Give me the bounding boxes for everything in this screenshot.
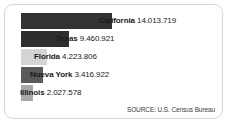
bar-label-name: Texas [56, 34, 78, 43]
bar-label-name: Illinois [20, 88, 45, 97]
bar-label-value: 3.416.922 [74, 70, 109, 79]
bar-label-name: California [99, 16, 135, 25]
chart-row-nueva-york: Nueva York 3.416.922 [5, 66, 222, 84]
infographic-card: California 14.013.719 Texas 9.460.921 Fl… [4, 4, 223, 119]
bar-chart: California 14.013.719 Texas 9.460.921 Fl… [5, 5, 222, 118]
bar-label-illinois: Illinois 2.027.578 [20, 86, 81, 99]
bar-label-value: 9.460.921 [80, 34, 115, 43]
chart-row-california: California 14.013.719 [5, 12, 222, 30]
bar-label-name: Nueva York [30, 70, 72, 79]
bar-label-nueva-york: Nueva York 3.416.922 [30, 68, 109, 81]
bar-label-value: 14.013.719 [137, 16, 176, 25]
bar-label-florida: Florida 4.223.806 [34, 50, 97, 63]
bar-label-name: Florida [34, 52, 60, 61]
bar-label-texas: Texas 9.460.921 [56, 32, 114, 45]
chart-row-texas: Texas 9.460.921 [5, 30, 222, 48]
chart-row-illinois: Illinois 2.027.578 [5, 84, 222, 102]
bar-label-value: 4.223.806 [62, 52, 97, 61]
bar-label-value: 2.027.578 [47, 88, 82, 97]
bar-label-california: California 14.013.719 [99, 14, 176, 27]
source-note: SOURCE: U.S. Census Bureau [127, 105, 215, 114]
chart-row-florida: Florida 4.223.806 [5, 48, 222, 66]
